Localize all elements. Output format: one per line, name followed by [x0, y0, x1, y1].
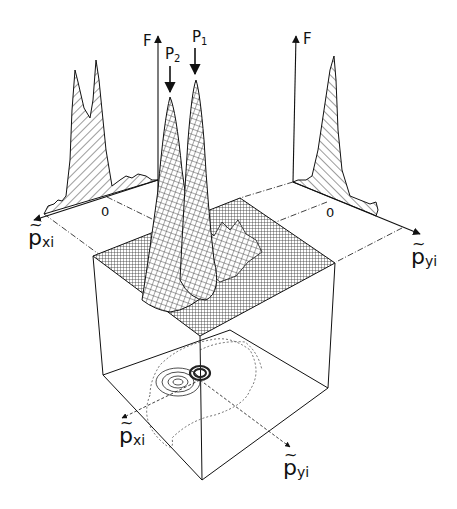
bottom-x-sub: xi: [133, 432, 145, 448]
right-origin-label: 0: [326, 206, 334, 219]
right-f-axis: [293, 36, 296, 182]
x-axis-sub: xi: [42, 234, 54, 250]
surface-peak-p1: [180, 80, 217, 300]
bottom-x-axis-label: pxi: [119, 425, 145, 447]
right-f-label: F: [303, 32, 312, 47]
peak-p2-label: P2: [165, 47, 180, 64]
bottom-y-axis-label: pyi: [283, 457, 309, 479]
peak-p1-main: P: [192, 28, 201, 46]
left-f-label: F: [143, 34, 152, 49]
y-axis-main: p: [411, 246, 425, 268]
peak-p2-main: P: [165, 45, 174, 63]
bottom-y-main: p: [283, 457, 297, 479]
left-origin-label: 0: [101, 205, 109, 218]
left-x-axis-label: pxi: [28, 227, 54, 249]
right-y-axis-label: pyi: [411, 246, 437, 268]
figure-canvas: [0, 0, 457, 509]
x-axis-main: p: [28, 227, 42, 249]
bottom-x-main: p: [119, 425, 133, 447]
peak-p2-sub: 2: [174, 53, 180, 64]
bottom-y-sub: yi: [297, 464, 309, 480]
peak-p1-label: P1: [192, 30, 207, 47]
peak-p1-sub: 1: [201, 36, 207, 47]
y-axis-sub: yi: [425, 253, 437, 269]
